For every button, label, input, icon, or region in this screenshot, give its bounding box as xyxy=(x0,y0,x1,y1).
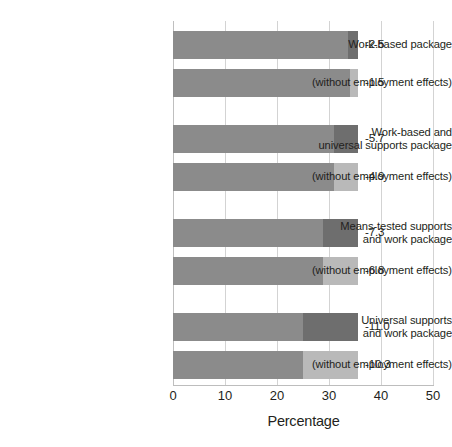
category-label-column xyxy=(0,0,168,364)
category-label-6: Universal supportsand work package xyxy=(287,314,452,341)
x-tick-label-40: 40 xyxy=(374,388,388,403)
bar-segment-base-7 xyxy=(173,351,303,379)
x-tick-label-10: 10 xyxy=(218,388,232,403)
category-label-4: Means-tested supportsand work package xyxy=(287,220,452,247)
category-label-2: Work-based anduniversal supports package xyxy=(287,126,452,153)
category-label-line: Means-tested supports xyxy=(287,220,452,234)
category-label-line: (without employment effects) xyxy=(287,264,452,278)
x-tick-label-20: 20 xyxy=(270,388,284,403)
category-label-line: Work-based and xyxy=(287,126,452,140)
category-label-line: (without employment effects) xyxy=(287,76,452,90)
x-tick-label-0: 0 xyxy=(169,388,176,403)
category-label-5: (without employment effects) xyxy=(287,264,452,278)
bar-segment-base-6 xyxy=(173,313,303,341)
x-tick-label-50: 50 xyxy=(426,388,440,403)
category-label-7: (without employment effects) xyxy=(287,358,452,372)
horizontal-bar-chart: -2.5-1.5-5.7-4.9-7.3-6.8-11.0-10.3 01020… xyxy=(0,0,452,447)
x-axis-title: Percentage xyxy=(173,413,434,430)
category-label-line: and work package xyxy=(287,327,452,341)
category-label-0: Work-based package xyxy=(287,38,452,52)
category-label-line: Universal supports xyxy=(287,314,452,328)
category-label-1: (without employment effects) xyxy=(287,76,452,90)
category-label-3: (without employment effects) xyxy=(287,170,452,184)
x-axis-line xyxy=(173,385,434,386)
x-tick-label-30: 30 xyxy=(322,388,336,403)
category-label-line: (without employment effects) xyxy=(287,358,452,372)
category-label-line: and work package xyxy=(287,233,452,247)
category-label-line: universal supports package xyxy=(287,139,452,153)
category-label-line: (without employment effects) xyxy=(287,170,452,184)
category-label-line: Work-based package xyxy=(287,38,452,52)
